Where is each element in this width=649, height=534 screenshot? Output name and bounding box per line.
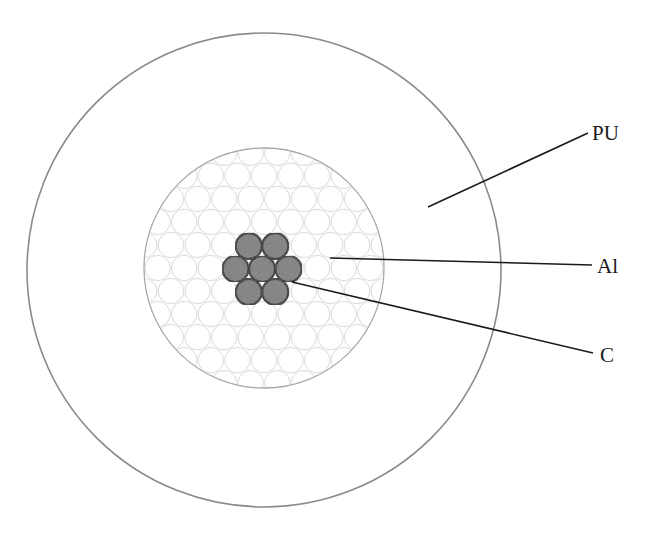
- al-strand: [185, 186, 210, 211]
- al-strand: [225, 347, 250, 372]
- al-strand: [318, 186, 343, 211]
- al-strand: [251, 347, 276, 372]
- al-strand: [265, 370, 290, 395]
- core-strand: [223, 256, 249, 282]
- leader-line-pu: [428, 133, 588, 207]
- al-strand: [251, 163, 276, 188]
- al-strand: [265, 140, 290, 165]
- al-strand: [172, 255, 197, 280]
- al-strand: [185, 370, 210, 395]
- al-strand: [158, 232, 183, 257]
- al-strand: [118, 255, 143, 280]
- al-strand: [318, 370, 343, 395]
- al-strand: [318, 140, 343, 165]
- al-strand: [344, 232, 369, 257]
- al-strand: [278, 209, 303, 234]
- al-strand: [305, 209, 330, 234]
- al-strand: [305, 163, 330, 188]
- al-strand: [278, 347, 303, 372]
- al-strand: [198, 163, 223, 188]
- label-c: C: [600, 343, 614, 367]
- al-strand: [172, 209, 197, 234]
- al-strand: [291, 324, 316, 349]
- al-strand: [185, 278, 210, 303]
- al-strand: [331, 301, 356, 326]
- cable-cross-section-diagram: PU Al C: [0, 0, 649, 534]
- al-strand: [172, 301, 197, 326]
- label-pu: PU: [592, 121, 619, 145]
- al-strand: [278, 163, 303, 188]
- al-strand: [238, 140, 263, 165]
- al-strand: [225, 163, 250, 188]
- al-strand: [238, 370, 263, 395]
- core-strand: [262, 279, 288, 305]
- al-strand: [265, 324, 290, 349]
- al-strand: [278, 301, 303, 326]
- al-strand: [225, 209, 250, 234]
- al-strand: [172, 347, 197, 372]
- al-strand: [291, 232, 316, 257]
- al-strand: [185, 232, 210, 257]
- label-al: Al: [597, 254, 618, 278]
- al-strand: [172, 163, 197, 188]
- labels: PU Al C: [592, 121, 619, 367]
- al-strand: [238, 186, 263, 211]
- al-strand: [344, 186, 369, 211]
- core-strand: [236, 233, 262, 259]
- al-strand: [251, 209, 276, 234]
- al-strand: [305, 255, 330, 280]
- al-strand: [291, 186, 316, 211]
- al-strand: [198, 255, 223, 280]
- al-strand: [238, 324, 263, 349]
- al-strand: [344, 324, 369, 349]
- al-strand: [318, 324, 343, 349]
- core-strand: [276, 256, 302, 282]
- al-strand: [211, 140, 236, 165]
- al-strand: [331, 209, 356, 234]
- core-strand: [262, 233, 288, 259]
- al-strand: [318, 232, 343, 257]
- al-strand: [198, 301, 223, 326]
- al-strand: [265, 186, 290, 211]
- al-strand: [331, 163, 356, 188]
- al-strand: [185, 324, 210, 349]
- al-strand: [158, 186, 183, 211]
- al-strand: [211, 370, 236, 395]
- al-strand: [291, 370, 316, 395]
- al-strand: [211, 232, 236, 257]
- al-strand: [158, 324, 183, 349]
- al-strand: [198, 209, 223, 234]
- al-strand: [145, 255, 170, 280]
- core-strand: [236, 279, 262, 305]
- al-strand: [211, 186, 236, 211]
- al-strand: [305, 301, 330, 326]
- al-strand: [198, 347, 223, 372]
- al-strand: [158, 278, 183, 303]
- core-strand: [249, 256, 275, 282]
- al-strand: [331, 347, 356, 372]
- al-strand: [305, 347, 330, 372]
- al-strand: [185, 140, 210, 165]
- al-strand: [211, 324, 236, 349]
- al-strand: [291, 140, 316, 165]
